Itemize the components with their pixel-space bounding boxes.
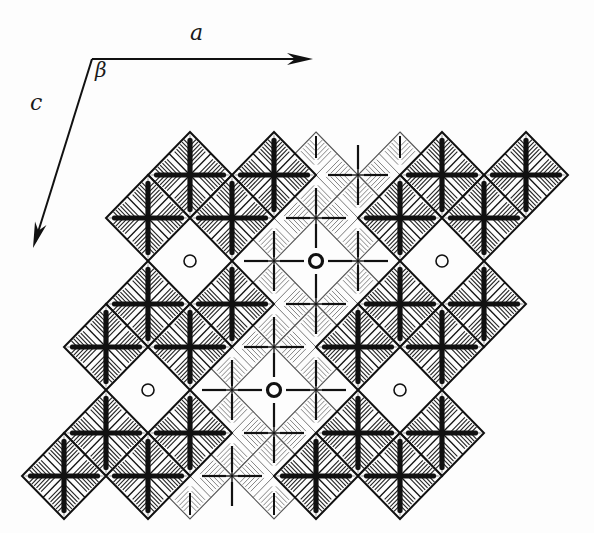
octahedra-diagram (0, 0, 594, 533)
cation-circle-icon (394, 384, 406, 396)
a-axis-label: a (190, 22, 203, 44)
beta-angle-label: β (95, 60, 107, 80)
structure-figure: a c β (0, 0, 594, 533)
c-axis-arrow (35, 59, 92, 242)
cation-circle-icon (184, 255, 196, 267)
cation-circle-icon (436, 255, 448, 267)
c-axis-label: c (30, 92, 42, 114)
bold-cation-circle-icon (310, 255, 323, 268)
bold-cation-circle-icon (268, 384, 281, 397)
cation-circle-icon (142, 384, 154, 396)
